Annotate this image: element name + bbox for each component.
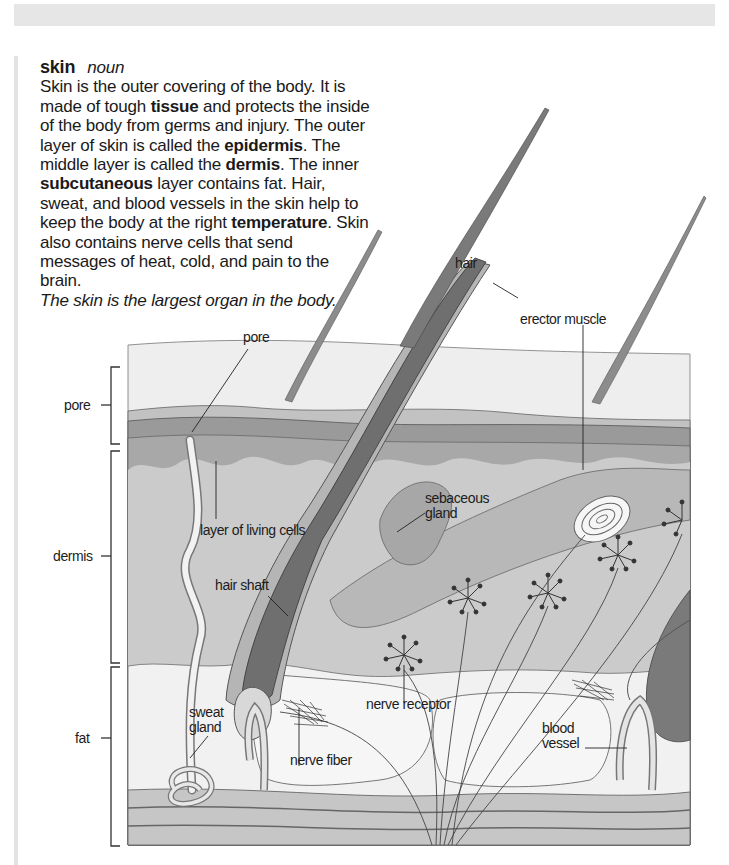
callout-erector-muscle: erector muscle	[520, 312, 606, 327]
nerve-receptors	[384, 500, 684, 671]
callout-nerve-receptor: nerve receptor	[366, 697, 451, 712]
callout-nerve-fiber: nerve fiber	[290, 753, 352, 768]
def-term-dermis: dermis	[225, 155, 280, 174]
part-of-speech: noun	[87, 58, 124, 77]
corpuscle	[566, 487, 638, 552]
dictionary-entry: skinnoun Skin is the outer covering of t…	[40, 58, 370, 310]
example-sentence: The skin is the largest organ in the bod…	[40, 291, 370, 310]
entry-heading: skinnoun	[40, 58, 370, 77]
callout-pore: pore	[243, 330, 269, 345]
def-term-temperature: temperature	[231, 213, 327, 232]
bracket-label-pore: pore	[64, 398, 90, 413]
callout-sweat-gland: sweatgland	[189, 705, 224, 735]
definition: Skin is the outer covering of the body. …	[40, 77, 370, 290]
callout-blood-vessel: bloodvessel	[542, 721, 579, 751]
headword: skin	[40, 57, 75, 77]
bracket-label-fat: fat	[75, 731, 89, 746]
nerve-fibers	[280, 534, 682, 845]
layer-brackets	[101, 367, 120, 846]
def-term-subcutaneous: subcutaneous	[40, 174, 153, 193]
callout-sebaceous-gland: sebaceousgland	[425, 491, 489, 521]
margin-rule	[14, 56, 18, 865]
def-text: . The inner	[280, 155, 359, 174]
callout-hair: hair	[455, 256, 477, 271]
header-band	[14, 4, 715, 26]
callout-hair-shaft: hair shaft	[215, 578, 269, 593]
def-term-epidermis: epidermis	[224, 136, 303, 155]
callout-layer-of-living-cells: layer of living cells	[200, 523, 305, 538]
def-term-tissue: tissue	[151, 97, 199, 116]
bracket-label-dermis: dermis	[53, 549, 93, 564]
